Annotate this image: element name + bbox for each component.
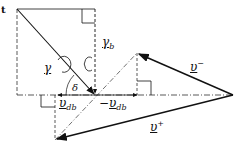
- right-angle-mark-right: [137, 81, 151, 95]
- diagonal-vector: [17, 9, 94, 94]
- delta-label: δ: [72, 83, 78, 93]
- gamma-b-label: γb: [102, 36, 114, 51]
- gamma-b-rotation-icon: [84, 57, 92, 71]
- v-minus-label: υ−: [190, 60, 204, 73]
- right-angle-mark-top: [82, 9, 95, 23]
- gamma-rotation-icon: [58, 56, 71, 72]
- v-minus-vector: [139, 54, 233, 95]
- right-angle-mark-left: [41, 95, 55, 107]
- corner-mark: t: [1, 5, 6, 15]
- neg-v-db-label: −υdb: [99, 97, 127, 112]
- vector-diagram: [0, 0, 250, 143]
- gamma-label: γ: [44, 62, 51, 74]
- v-db-label: υdb: [59, 97, 77, 112]
- v-plus-label: υ+: [150, 120, 164, 133]
- v-plus-vector: [57, 95, 233, 139]
